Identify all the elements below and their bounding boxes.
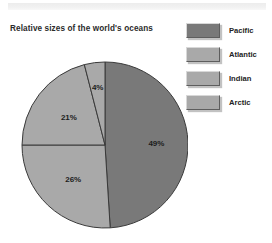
pie-slice [22, 145, 110, 228]
pie-slice [105, 62, 188, 228]
pie-plot-area: 49%26%21%4% [20, 60, 188, 232]
pie-slice-label: 4% [92, 83, 104, 92]
legend-item-label: Atlantic [229, 50, 257, 59]
pie-svg: 49%26%21%4% [20, 60, 188, 232]
pie-slice-label: 21% [61, 113, 77, 122]
chart-legend: PacificAtlanticIndianArctic [186, 18, 272, 114]
legend-item-label: Indian [229, 74, 251, 83]
pie-slice-label: 49% [148, 139, 164, 148]
legend-item[interactable]: Indian [186, 66, 272, 90]
legend-item-label: Pacific [229, 26, 253, 35]
pie-chart-figure: Relative sizes of the world's oceans 49%… [0, 0, 272, 243]
legend-item-label: Arctic [229, 98, 251, 107]
top-edge-band [8, 3, 266, 10]
legend-color-swatch [186, 23, 220, 38]
chart-title: Relative sizes of the world's oceans [10, 24, 153, 33]
legend-color-swatch [186, 95, 220, 110]
pie-slice-label: 26% [65, 175, 81, 184]
legend-item[interactable]: Atlantic [186, 42, 272, 66]
legend-color-swatch [186, 71, 220, 86]
legend-item[interactable]: Pacific [186, 18, 272, 42]
legend-color-swatch [186, 47, 220, 62]
legend-item[interactable]: Arctic [186, 90, 272, 114]
